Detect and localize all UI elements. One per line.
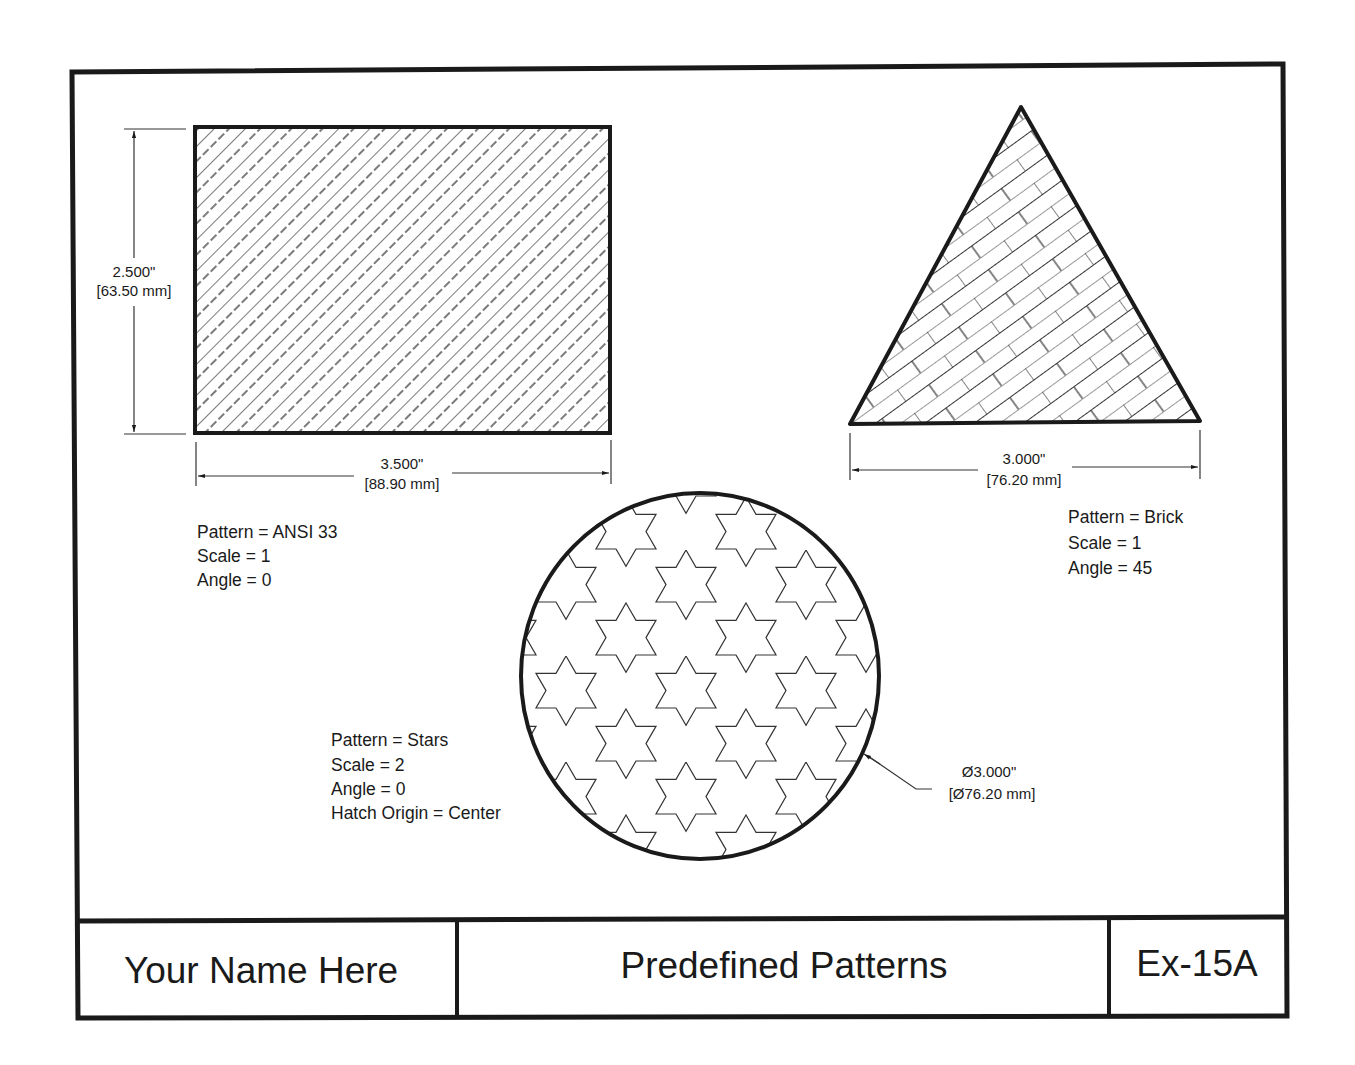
- triangle-note-scale: Scale = 1: [1068, 533, 1141, 553]
- title-block-exercise: Ex-15A: [1136, 943, 1258, 984]
- rectangle-note-angle: Angle = 0: [197, 570, 272, 590]
- triangle-notes: Pattern = Brick Scale = 1 Angle = 45: [1068, 507, 1184, 578]
- circle-notes: Pattern = Stars Scale = 2 Angle = 0 Hatc…: [331, 730, 501, 823]
- title-block-author: Your Name Here: [124, 950, 398, 991]
- rectangle-notes: Pattern = ANSI 33 Scale = 1 Angle = 0: [197, 522, 338, 590]
- rectangle-width-inch: 3.500": [381, 455, 424, 472]
- hatched-triangle: [850, 107, 1200, 424]
- rectangle-note-pattern: Pattern = ANSI 33: [197, 522, 338, 542]
- circle-diameter-leader: Ø3.000" [Ø76.20 mm]: [864, 754, 1035, 802]
- rectangle-width-mm: [88.90 mm]: [364, 475, 439, 492]
- rectangle-width-dimension: 3.500" [88.90 mm]: [196, 440, 611, 492]
- rectangle-height-mm: [63.50 mm]: [96, 282, 171, 299]
- circle-diameter-inch: Ø3.000": [962, 763, 1017, 780]
- triangle-width-inch: 3.000": [1003, 450, 1046, 467]
- hatched-circle: [521, 493, 879, 859]
- triangle-width-mm: [76.20 mm]: [986, 471, 1061, 488]
- rectangle-height-inch: 2.500": [113, 263, 156, 280]
- rectangle-height-dimension: 2.500" [63.50 mm]: [96, 129, 186, 434]
- triangle-width-dimension: 3.000" [76.20 mm]: [850, 430, 1200, 488]
- title-block-title: Predefined Patterns: [620, 945, 947, 986]
- circle-note-pattern: Pattern = Stars: [331, 730, 448, 750]
- triangle-note-angle: Angle = 45: [1068, 558, 1152, 578]
- circle-note-scale: Scale = 2: [331, 755, 404, 775]
- drawing-sheet: Your Name Here Predefined Patterns Ex-15…: [0, 0, 1355, 1065]
- title-block: Your Name Here Predefined Patterns Ex-15…: [76, 917, 1285, 1016]
- triangle-note-pattern: Pattern = Brick: [1068, 507, 1184, 527]
- circle-diameter-mm: [Ø76.20 mm]: [949, 785, 1036, 802]
- circle-note-hatch-origin: Hatch Origin = Center: [331, 803, 501, 823]
- rectangle-note-scale: Scale = 1: [197, 546, 270, 566]
- hatched-rectangle: [195, 127, 610, 433]
- circle-note-angle: Angle = 0: [331, 779, 406, 799]
